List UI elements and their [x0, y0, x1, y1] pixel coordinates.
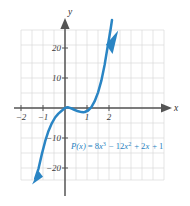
- equation-equals: =: [88, 141, 93, 151]
- x-axis-label: x: [173, 103, 179, 113]
- x-tick-label-1: 1: [85, 112, 90, 122]
- equation-term4: 1: [159, 141, 163, 151]
- cubic-graph-svg: x y −2 −1 1 2 20 10 −10 −20 P(x)=8x3−12x…: [0, 0, 190, 206]
- equation-operator-2: +: [134, 141, 139, 151]
- equation-label: P(x)=8x3−12x2+2x+1: [70, 140, 163, 152]
- equation-term2-coef: 12: [116, 141, 125, 151]
- y-axis-arrowhead: [60, 18, 69, 29]
- equation-term3-var: x: [144, 141, 149, 151]
- equation-term1-exponent: 3: [103, 140, 106, 147]
- equation-term2-exponent: 2: [128, 140, 131, 147]
- y-tick-label-20: 20: [52, 43, 62, 53]
- x-axis-arrowhead: [161, 103, 172, 112]
- equation-operator-1: −: [109, 141, 114, 151]
- x-tick-label-neg1: −1: [38, 112, 49, 122]
- x-tick-label-neg2: −2: [16, 112, 27, 122]
- x-tick-label-2: 2: [107, 112, 112, 122]
- y-tick-label-10: 10: [52, 73, 62, 83]
- equation-lhs: P(x): [70, 141, 86, 151]
- curve-path: [35, 20, 112, 179]
- y-axis-label: y: [67, 7, 73, 17]
- equation-operator-3: +: [152, 141, 157, 151]
- y-tick-label-neg20: −20: [46, 163, 62, 173]
- figure-container: x y −2 −1 1 2 20 10 −10 −20 P(x)=8x3−12x…: [0, 0, 190, 206]
